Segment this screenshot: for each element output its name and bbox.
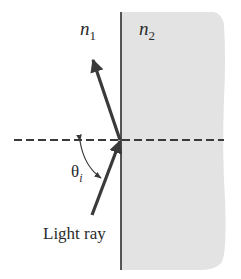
angle-arc <box>80 141 101 178</box>
incident-ray <box>92 141 120 215</box>
label-light-ray: Light ray <box>43 224 106 243</box>
reflection-diagram: n1 n2 θi Light ray <box>0 0 241 279</box>
reflected-ray <box>93 60 120 140</box>
label-n1: n1 <box>80 18 96 43</box>
label-theta-i: θi <box>71 162 83 185</box>
medium-n2-region <box>121 12 226 270</box>
